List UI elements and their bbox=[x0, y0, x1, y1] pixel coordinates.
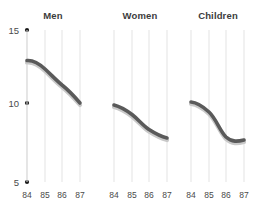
y-tick-label-15: 15 bbox=[8, 25, 19, 36]
x-tick-label-women-86: 86 bbox=[144, 190, 154, 200]
x-tick-label-children-86: 86 bbox=[221, 190, 231, 200]
panel-title-men: Men bbox=[43, 10, 62, 21]
y-tick-label-5: 5 bbox=[14, 177, 19, 188]
series-line-women bbox=[114, 105, 167, 138]
chart-canvas: 15 10 5 Men 84 85 86 87 Women bbox=[0, 0, 258, 210]
x-tick-label-men-85: 85 bbox=[40, 190, 50, 200]
series-shadow-men bbox=[27, 62, 80, 105]
x-tick-label-men-84: 84 bbox=[22, 190, 32, 200]
x-tick-label-women-84: 84 bbox=[109, 190, 119, 200]
y-tick-label-10: 10 bbox=[8, 98, 19, 109]
y-axis: 15 10 5 bbox=[8, 25, 29, 188]
x-tick-label-children-84: 84 bbox=[186, 190, 196, 200]
panel-children: Children 84 85 86 87 bbox=[186, 10, 249, 200]
x-tick-label-men-87: 87 bbox=[75, 190, 85, 200]
small-multiples-line-chart: 15 10 5 Men 84 85 86 87 Women bbox=[0, 0, 258, 210]
x-tick-label-men-86: 86 bbox=[57, 190, 67, 200]
panel-title-women: Women bbox=[123, 10, 158, 21]
x-tick-label-children-87: 87 bbox=[239, 190, 249, 200]
x-tick-label-women-87: 87 bbox=[162, 190, 172, 200]
panel-title-children: Children bbox=[198, 10, 238, 21]
x-tick-label-children-85: 85 bbox=[204, 190, 214, 200]
panel-women: Women 84 85 86 87 bbox=[109, 10, 172, 200]
x-tick-label-women-85: 85 bbox=[127, 190, 137, 200]
panel-men: Men 84 85 86 87 bbox=[22, 10, 85, 200]
